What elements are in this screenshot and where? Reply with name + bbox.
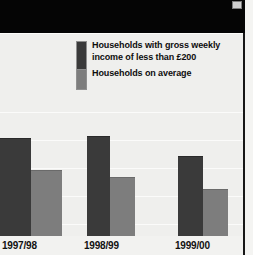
chart-right-border bbox=[243, 33, 245, 255]
page-corner-marker-icon bbox=[232, 1, 242, 9]
x-axis-tick-1998-99: 1998/99 bbox=[84, 240, 119, 251]
bar-low-income-1997-98 bbox=[0, 138, 31, 236]
page-header-band bbox=[0, 0, 245, 33]
legend-label-average: Households on average bbox=[92, 68, 242, 80]
bar-low-income-1998-99 bbox=[87, 136, 110, 236]
legend-label-low-income: Households with gross weekly income of l… bbox=[92, 40, 242, 63]
page-right-margin bbox=[245, 0, 253, 255]
bar-average-1997-98 bbox=[31, 170, 62, 236]
bar-group-1997-98 bbox=[0, 34, 62, 236]
x-axis-tick-1999-00: 1999/00 bbox=[175, 240, 210, 251]
chart-legend: Households with gross weekly income of l… bbox=[76, 40, 242, 85]
legend-item-average: Households on average bbox=[76, 68, 242, 80]
legend-item-low-income: Households with gross weekly income of l… bbox=[76, 40, 242, 63]
chart-page: 1997/98 1998/99 1999/00 Households with … bbox=[0, 0, 253, 255]
bar-average-1999-00 bbox=[203, 189, 228, 236]
bar-low-income-1999-00 bbox=[178, 156, 203, 236]
x-axis-tick-1997-98: 1997/98 bbox=[2, 240, 37, 251]
bar-average-1998-99 bbox=[110, 177, 135, 236]
legend-swatch-average-icon bbox=[76, 69, 87, 90]
